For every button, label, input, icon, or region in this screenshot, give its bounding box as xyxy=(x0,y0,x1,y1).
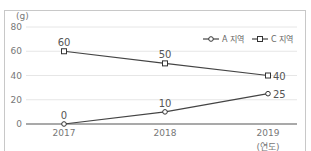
square-marker xyxy=(62,49,67,54)
legend-label: A 지역 xyxy=(222,34,244,44)
legend-square-icon xyxy=(258,37,263,42)
y-tick-label: 20 xyxy=(11,95,23,105)
y-axis-label: (g) xyxy=(16,11,29,21)
data-label: 60 xyxy=(58,37,71,48)
circle-marker xyxy=(266,91,271,96)
square-marker xyxy=(163,61,168,66)
line-chart: 020406080 201720182019 01025605040 A 지역C… xyxy=(0,0,311,151)
data-label: 50 xyxy=(159,49,172,60)
circle-marker xyxy=(62,122,67,127)
legend-label: C 지역 xyxy=(271,34,293,44)
x-tick-label: 2018 xyxy=(154,128,177,138)
x-tick-label: 2019 xyxy=(257,128,280,138)
square-marker xyxy=(266,73,271,78)
y-tick-label: 40 xyxy=(11,71,23,81)
x-tick-label: 2017 xyxy=(53,128,76,138)
y-axis: 020406080 xyxy=(11,22,23,129)
data-label: 25 xyxy=(273,89,286,100)
data-label: 10 xyxy=(159,98,172,109)
series-lines: 01025605040 xyxy=(58,37,286,126)
circle-marker xyxy=(163,110,168,115)
x-axis: 201720182019 xyxy=(53,128,280,138)
y-tick-label: 0 xyxy=(16,119,22,129)
data-label: 40 xyxy=(273,71,286,82)
legend-circle-icon xyxy=(209,37,214,42)
x-axis-label: (연도) xyxy=(256,142,279,151)
y-tick-label: 60 xyxy=(11,46,23,56)
y-tick-label: 80 xyxy=(11,22,23,32)
legend: A 지역C 지역 xyxy=(203,34,293,44)
data-label: 0 xyxy=(61,110,67,121)
